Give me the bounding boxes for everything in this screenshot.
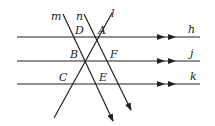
label-n: n: [76, 10, 83, 23]
point-C: C: [59, 71, 68, 84]
label-h: h: [188, 23, 195, 36]
label-l: l: [111, 7, 115, 20]
line-n: [84, 14, 131, 110]
label-k: k: [190, 70, 197, 83]
label-m: m: [51, 10, 61, 23]
point-B: B: [69, 48, 78, 61]
point-A: A: [97, 24, 106, 37]
point-E: E: [98, 71, 107, 84]
parallel-lines-diagram: h j k m n l A B C D E F: [0, 0, 215, 126]
point-F: F: [109, 48, 118, 61]
label-j: j: [187, 47, 194, 60]
point-D: D: [74, 24, 84, 37]
